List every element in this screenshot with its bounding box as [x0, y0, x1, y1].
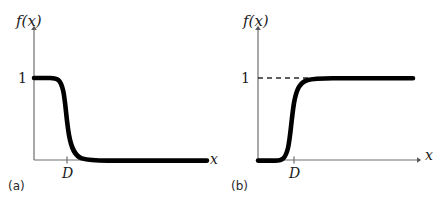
y-axis-label-a: f(x) — [16, 14, 42, 29]
panel-b: f(x) 1 D x (b) — [223, 0, 447, 202]
x-tick-label-d-a: D — [62, 166, 73, 180]
figure-root: f(x) 1 D x (a) — [0, 0, 447, 202]
x-axis-label-a: x — [210, 152, 218, 166]
panel-a: f(x) 1 D x (a) — [0, 0, 224, 202]
sigmoid-curve-decreasing — [34, 78, 207, 161]
panel-b-plot — [223, 0, 447, 202]
panel-caption-b: (b) — [231, 180, 248, 192]
y-tick-label-one-a: 1 — [18, 71, 27, 85]
y-tick-label-one-b: 1 — [241, 71, 250, 85]
sigmoid-curve-increasing — [258, 78, 413, 160]
x-axis-label-b: x — [425, 148, 433, 162]
panel-caption-a: (a) — [8, 180, 25, 192]
y-axis-label-b: f(x) — [243, 14, 269, 29]
panel-a-plot — [0, 0, 224, 202]
x-tick-label-d-b: D — [289, 166, 300, 180]
